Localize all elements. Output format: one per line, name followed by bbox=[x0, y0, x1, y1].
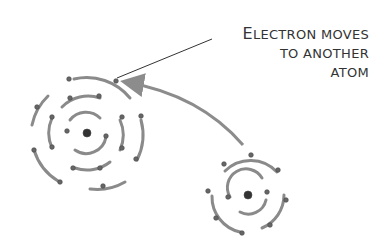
caption-line-2: TO ANOTHER bbox=[243, 44, 370, 63]
caption-label: ELECTRON MOVES TO ANOTHER ATOM bbox=[243, 24, 370, 82]
caption-line-1: ELECTRON MOVES bbox=[243, 24, 370, 44]
small-atom-electrons bbox=[206, 153, 289, 236]
leader-line bbox=[117, 39, 212, 78]
caption-line-3: ATOM bbox=[243, 63, 370, 82]
